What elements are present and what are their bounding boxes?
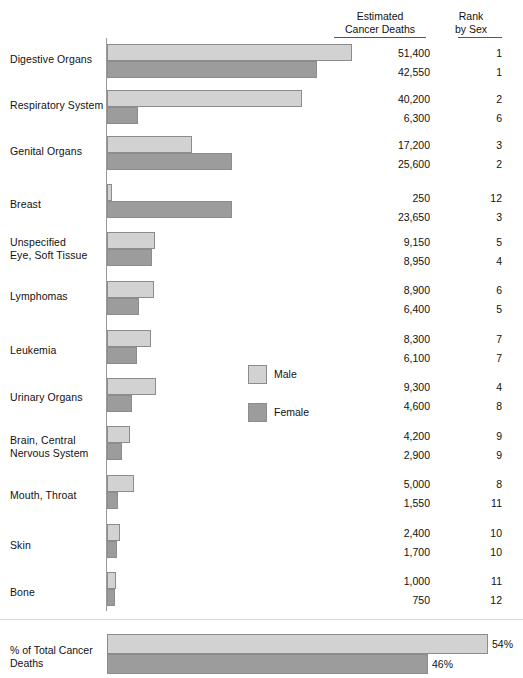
footer-label-pct-total-cancer-deaths: % of Total Cancer Deaths [10,644,93,670]
footer-label-line2: Deaths [10,657,43,669]
deaths-male-bone: 1,000 [330,575,430,587]
bar-female-breast [107,201,232,218]
bar-female-genital-organs [107,153,232,170]
legend-swatch-female [248,403,267,422]
legend-label-male: Male [274,368,297,380]
rank-female-digestive-organs: 1 [440,66,502,78]
bar-male-skin [107,524,120,541]
bar-male-bone [107,572,116,589]
rank-male-bone: 11 [440,575,502,587]
deaths-male-breast: 250 [330,192,430,204]
rank-female-lymphomas: 5 [440,303,502,315]
rank-female-genital-organs: 2 [440,158,502,170]
bar-female-leukemia [107,347,137,364]
deaths-female-respiratory-system: 6,300 [330,112,430,124]
category-label-line2: Nervous System [10,447,88,459]
deaths-male-digestive-organs: 51,400 [330,47,430,59]
bar-male-digestive-organs [107,44,352,61]
bar-female-lymphomas [107,298,139,315]
bar-female-bone [107,589,115,606]
category-label-mouth-throat: Mouth, Throat [10,489,106,502]
bar-male-respiratory-system [107,90,302,107]
deaths-male-mouth-throat: 5,000 [330,478,430,490]
deaths-female-brain-central-nervous-system: 2,900 [330,449,430,461]
category-label-line1: Unspecified [10,236,66,248]
category-label-lymphomas: Lymphomas [10,290,106,303]
rank-male-genital-organs: 3 [440,139,502,151]
pct-value-male: 54% [492,638,513,650]
bar-female-mouth-throat [107,492,118,509]
category-label-line1: Lymphomas [10,290,68,302]
header-deaths-line1: Estimated [330,10,430,23]
category-label-unspecified-eye-soft-tissue: Unspecified Eye, Soft Tissue [10,236,106,262]
rank-female-respiratory-system: 6 [440,112,502,124]
category-label-line1: Bone [10,586,35,598]
rank-male-respiratory-system: 2 [440,93,502,105]
bar-male-pct-total [107,634,488,654]
footer-label-line1: % of Total Cancer [10,644,93,656]
legend-swatch-male [248,365,267,384]
deaths-female-bone: 750 [330,594,430,606]
rank-female-urinary-organs: 8 [440,400,502,412]
deaths-female-mouth-throat: 1,550 [330,497,430,509]
pct-value-female: 46% [432,658,453,670]
bar-female-respiratory-system [107,107,138,124]
section-divider [0,619,523,620]
bar-female-pct-total [107,654,428,674]
rank-male-mouth-throat: 8 [440,478,502,490]
category-label-skin: Skin [10,539,106,552]
bar-male-lymphomas [107,281,154,298]
deaths-male-leukemia: 8,300 [330,333,430,345]
legend: Male Female [248,365,338,425]
rank-male-brain-central-nervous-system: 9 [440,430,502,442]
header-rank-line1: Rank [440,10,502,23]
bar-female-urinary-organs [107,395,132,412]
rank-female-brain-central-nervous-system: 9 [440,449,502,461]
cancer-deaths-bar-chart: Estimated Cancer Deaths Rank by Sex Dige… [0,0,523,678]
deaths-male-brain-central-nervous-system: 4,200 [330,430,430,442]
bar-male-leukemia [107,330,151,347]
bar-female-unspecified-eye-soft-tissue [107,249,152,266]
bar-male-breast [107,184,112,201]
deaths-male-skin: 2,400 [330,527,430,539]
deaths-male-urinary-organs: 9,300 [330,381,430,393]
header-deaths-line2: Cancer Deaths [330,23,430,36]
rank-female-skin: 10 [440,546,502,558]
category-label-line1: Urinary Organs [10,391,83,403]
category-label-bone: Bone [10,586,106,599]
rank-male-urinary-organs: 4 [440,381,502,393]
deaths-female-digestive-organs: 42,550 [330,66,430,78]
deaths-male-genital-organs: 17,200 [330,139,430,151]
legend-label-female: Female [274,406,309,418]
bar-female-digestive-organs [107,61,317,78]
category-label-line1: Leukemia [10,344,56,356]
category-label-line1: Digestive Organs [10,53,92,65]
header-rank-line2: by Sex [440,23,502,36]
deaths-female-lymphomas: 6,400 [330,303,430,315]
rank-female-bone: 12 [440,594,502,606]
rank-male-leukemia: 7 [440,333,502,345]
deaths-female-breast: 23,650 [330,211,430,223]
rank-male-unspecified-eye-soft-tissue: 5 [440,236,502,248]
bar-male-urinary-organs [107,378,156,395]
deaths-female-leukemia: 6,100 [330,352,430,364]
category-label-line1: Mouth, Throat [10,489,76,501]
header-rule-deaths [334,37,426,38]
bar-female-skin [107,541,117,558]
rank-female-unspecified-eye-soft-tissue: 4 [440,255,502,267]
rank-female-mouth-throat: 11 [440,497,502,509]
deaths-male-lymphomas: 8,900 [330,284,430,296]
deaths-female-skin: 1,700 [330,546,430,558]
deaths-female-unspecified-eye-soft-tissue: 8,950 [330,255,430,267]
rank-female-breast: 3 [440,211,502,223]
bar-male-unspecified-eye-soft-tissue [107,232,155,249]
deaths-male-respiratory-system: 40,200 [330,93,430,105]
category-label-breast: Breast [10,198,106,211]
category-label-line1: Breast [10,198,41,210]
category-label-digestive-organs: Digestive Organs [10,53,106,66]
column-header-rank: Rank by Sex [440,10,502,35]
deaths-female-genital-organs: 25,600 [330,158,430,170]
category-label-line1: Respiratory System [10,99,103,111]
header-rule-rank [458,37,502,38]
category-label-respiratory-system: Respiratory System [10,99,106,112]
